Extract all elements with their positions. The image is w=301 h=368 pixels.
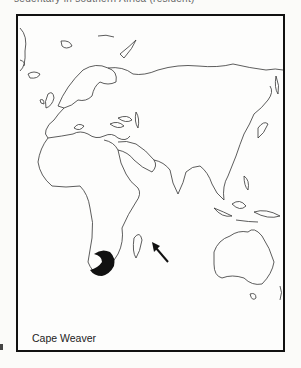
arrow-icon bbox=[152, 242, 168, 262]
margin-mark bbox=[0, 344, 3, 350]
cape-weaver-range bbox=[90, 250, 115, 276]
iceland-outline bbox=[28, 72, 40, 78]
svalbard-outline bbox=[61, 41, 72, 48]
british-isles-outline bbox=[45, 93, 54, 108]
australia-outline bbox=[214, 230, 274, 285]
mediterranean-outline bbox=[48, 132, 130, 140]
madagascar-outline bbox=[133, 234, 142, 258]
east-asia-outline bbox=[200, 86, 272, 200]
greenland-outline bbox=[20, 28, 26, 71]
europe-outline bbox=[58, 65, 116, 108]
tasmania-outline bbox=[250, 294, 256, 300]
world-map bbox=[18, 16, 283, 350]
india-outline bbox=[154, 160, 200, 194]
indonesia-outline bbox=[214, 208, 232, 216]
arabia-outline bbox=[118, 141, 156, 172]
russia-north-coast bbox=[108, 64, 283, 75]
map-caption: Cape Weaver bbox=[32, 332, 96, 344]
japan-outline bbox=[258, 123, 268, 138]
header-partial-text: sedentary in southern Africa (resident) bbox=[14, 0, 195, 4]
map-frame: Cape Weaver bbox=[16, 14, 285, 352]
new-guinea-outline bbox=[254, 211, 280, 218]
africa-outline bbox=[38, 138, 140, 274]
